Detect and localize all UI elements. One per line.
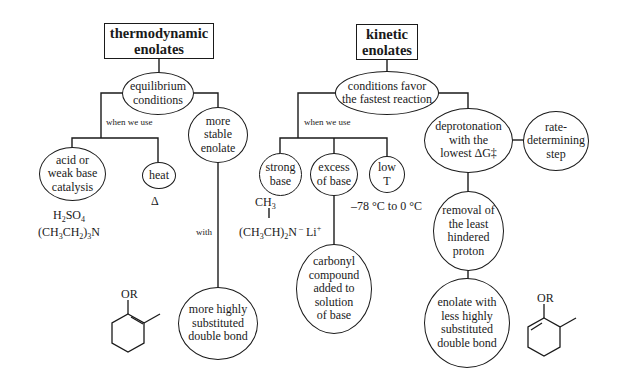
node-text: determining [527, 134, 585, 148]
deprotonation-node: deprotonation with the lowest ΔG‡ [424, 108, 513, 173]
equilibrium-conditions-node: equilibrium conditions [122, 72, 194, 115]
node-text: excess [318, 161, 349, 175]
title-line: enolates [357, 42, 417, 58]
kinetic-enolate-structure [528, 304, 576, 356]
title-line: thermodynamic [105, 25, 213, 41]
node-text: lowest ΔG‡ [440, 147, 497, 161]
low-t-node: low T [369, 156, 405, 193]
node-text: enolate with [438, 296, 497, 310]
carbonyl-added-node: carbonyl compound added to solution of b… [296, 244, 372, 334]
temperature-range: –78 °C to 0 °C [351, 200, 422, 213]
node-text: the least [449, 218, 489, 232]
kinetic-enolates-box: kinetic enolates [356, 24, 418, 60]
node-text: of base [317, 175, 351, 189]
kinetic-when-we-use-label: when we use [304, 117, 351, 127]
node-text: of base [317, 309, 351, 323]
node-text: base [270, 175, 291, 189]
conditions-favor-fastest-node: conditions favor the fastest reaction [335, 71, 439, 115]
node-text: substituted [441, 323, 493, 337]
kinetic-or-label: OR [537, 292, 554, 305]
node-text: stable [204, 128, 232, 142]
node-text: double bond [437, 337, 497, 351]
thermo-enolate-structure [112, 300, 160, 352]
node-text: catalysis [52, 181, 93, 195]
more-highly-substituted-node: more highly substituted double bond [178, 287, 258, 360]
excess-of-base-node: excess of base [310, 153, 358, 196]
node-text: enolate [201, 142, 236, 156]
rate-determining-step-node: rate- determining step [523, 111, 589, 171]
node-text: carbonyl [313, 255, 355, 269]
more-stable-enolate-node: more stable enolate [188, 107, 248, 163]
node-text: less highly [441, 310, 493, 324]
node-text: heat [149, 169, 169, 183]
acid-weak-base-catalysis-node: acid or weak base catalysis [39, 147, 106, 201]
node-text: strong [266, 161, 296, 175]
node-text: conditions favor [348, 80, 426, 94]
lda-formula: CH3 (CH3CH)2N – Li+ [239, 196, 321, 244]
less-highly-substituted-node: enolate with less highly substituted dou… [424, 278, 510, 368]
heat-symbol: Δ [151, 195, 159, 208]
node-text: substituted [192, 317, 244, 331]
when-we-use-label: when we use [106, 117, 153, 127]
node-text: T [383, 175, 390, 189]
catalyst-formulas: H2SO4(CH3CH2)3N [38, 209, 100, 244]
title-line: enolates [105, 41, 213, 57]
with-label: with [196, 227, 212, 237]
node-text: compound [309, 269, 360, 283]
node-text: hindered [448, 231, 490, 245]
node-text: weak base [48, 167, 98, 181]
node-text: more [206, 115, 231, 129]
node-text: equilibrium [130, 80, 186, 94]
node-text: solution [315, 296, 354, 310]
thermo-or-label: OR [121, 288, 138, 301]
heat-node: heat [142, 162, 176, 189]
node-text: added to [314, 282, 355, 296]
node-text: low [378, 161, 396, 175]
node-text: proton [453, 245, 484, 259]
node-text: more highly [189, 303, 247, 317]
strong-base-node: strong base [259, 153, 302, 196]
node-text: deprotonation [435, 120, 502, 134]
node-text: removal of [442, 204, 494, 218]
node-text: acid or [56, 154, 89, 168]
node-text: with the [449, 134, 488, 148]
title-line: kinetic [357, 26, 417, 42]
node-text: step [546, 148, 565, 162]
node-text: double bond [188, 330, 248, 344]
node-text: the fastest reaction [342, 93, 432, 107]
node-text: conditions [133, 94, 183, 108]
removal-least-hindered-node: removal of the least hindered proton [433, 191, 504, 271]
node-text: rate- [545, 121, 567, 135]
thermodynamic-enolates-box: thermodynamic enolates [104, 23, 214, 59]
